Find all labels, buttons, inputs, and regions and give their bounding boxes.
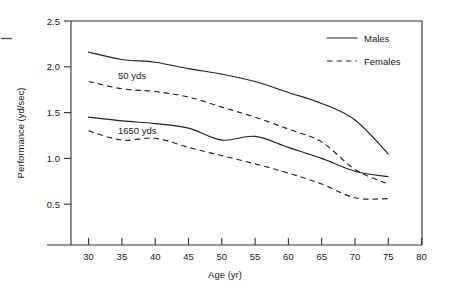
x-tick-label: 65 (316, 251, 327, 262)
annotation-50-yds: 50 yds (118, 70, 146, 81)
legend-label-females: Females (364, 56, 401, 67)
y-axis-ticks (64, 21, 71, 204)
x-axis-title: Age (yr) (208, 269, 242, 280)
y-axis-title: Performance (yd/sec) (15, 88, 26, 179)
y-tick-label: 1.5 (47, 107, 60, 118)
x-tick-label: 45 (183, 251, 194, 262)
y-tick-label: 1.0 (47, 153, 60, 164)
x-tick-label: 75 (383, 251, 394, 262)
legend: Males Females (327, 33, 401, 67)
legend-label-males: Males (364, 33, 390, 44)
x-tick-label: 40 (150, 251, 161, 262)
performance-vs-age-chart: 2.5 2.0 1.5 1.0 0.5 Performance (yd/sec)… (0, 0, 456, 296)
y-tick-label: 2.5 (47, 16, 60, 27)
x-tick-label: 30 (83, 251, 94, 262)
y-tick-label: 2.0 (47, 61, 60, 72)
x-tick-label: 60 (283, 251, 294, 262)
plot-annotations: 50 yds 1650 yds (118, 70, 157, 136)
x-tick-label: 55 (250, 251, 261, 262)
annotation-1650-yds: 1650 yds (118, 125, 157, 136)
x-tick-label: 50 (217, 251, 228, 262)
x-tick-label: 70 (350, 251, 361, 262)
x-axis-ticks (89, 238, 422, 245)
y-axis-tick-labels: 2.5 2.0 1.5 1.0 0.5 (47, 16, 60, 210)
x-tick-label: 80 (416, 251, 427, 262)
x-tick-label: 35 (117, 251, 128, 262)
y-tick-label: 0.5 (47, 199, 60, 210)
x-axis-tick-labels: 30 35 40 45 50 55 60 65 70 75 80 (83, 251, 427, 262)
series-line-females-1650yds (89, 131, 389, 199)
